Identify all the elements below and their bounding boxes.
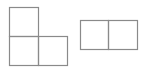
- l-triomino-cell-0: [10, 8, 39, 37]
- domino-cell-1: [109, 21, 138, 50]
- domino-shape: [81, 21, 138, 50]
- diagram-svg: [0, 0, 145, 69]
- l-triomino-shape: [10, 8, 68, 66]
- domino-cell-0: [81, 21, 109, 50]
- l-triomino-cell-1: [10, 37, 39, 66]
- l-triomino-cell-2: [39, 37, 68, 66]
- diagram-canvas: [0, 0, 145, 69]
